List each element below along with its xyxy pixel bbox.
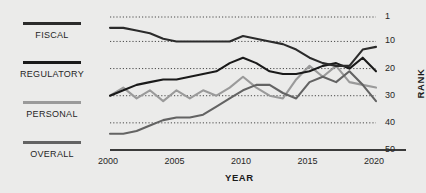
series-line-overall[interactable] xyxy=(110,71,376,133)
series-line-fiscal[interactable] xyxy=(110,28,376,66)
x-axis-title: YEAR xyxy=(225,172,254,183)
legend-item-fiscal[interactable]: FISCAL xyxy=(0,22,104,40)
series-line-personal[interactable] xyxy=(110,66,376,101)
y-axis-title: RANK xyxy=(415,68,426,98)
legend-item-regulatory[interactable]: REGULATORY xyxy=(0,61,104,79)
legend-swatch-fiscal xyxy=(23,22,81,25)
legend-item-overall[interactable]: OVERALL xyxy=(0,141,104,159)
legend-label-overall: OVERALL xyxy=(0,149,104,159)
legend-label-regulatory: REGULATORY xyxy=(0,69,104,79)
plot-area: 1102030405020002005201020152020 YEAR RAN… xyxy=(104,0,422,193)
legend-label-personal: PERSONAL xyxy=(0,109,104,119)
legend-swatch-personal xyxy=(23,101,81,104)
legend-swatch-regulatory xyxy=(23,61,81,64)
legend-item-personal[interactable]: PERSONAL xyxy=(0,101,104,119)
legend-label-fiscal: FISCAL xyxy=(0,30,104,40)
legend-swatch-overall xyxy=(23,141,81,144)
chart-legend: FISCAL REGULATORY PERSONAL OVERALL xyxy=(0,0,104,193)
line-chart-svg xyxy=(104,0,422,193)
